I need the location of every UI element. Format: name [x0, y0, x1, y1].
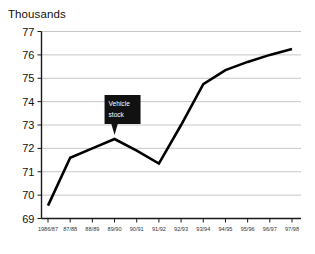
y-tick-label: 69: [22, 213, 34, 225]
x-tick-label: 88/89: [85, 226, 99, 232]
annotation-pointer: [111, 124, 117, 135]
y-tick-label: 70: [22, 189, 34, 201]
x-tick-label: 87/88: [63, 226, 77, 232]
data-series-line: [48, 49, 292, 206]
x-tick-label: 92/93: [174, 226, 188, 232]
chart-container: Thousands 697071727374757677 1986/8787/8…: [0, 0, 315, 254]
y-tick-label: 74: [22, 96, 34, 108]
y-tick-label: 76: [22, 49, 34, 61]
x-tick-label: 91/92: [152, 226, 166, 232]
x-tick-label: 94/95: [218, 226, 232, 232]
y-tick-label: 71: [22, 166, 34, 178]
y-tick-label: 77: [22, 26, 34, 38]
line-chart-plot: 697071727374757677 1986/8787/8888/8989/9…: [0, 0, 315, 254]
annotation-vehicle-stock: Vehiclestock: [105, 95, 141, 135]
annotation-label-line1: Vehicle: [109, 100, 131, 107]
x-tick-label: 96/97: [263, 226, 277, 232]
x-tick-label: 89/90: [108, 226, 122, 232]
x-axis-ticks: 1986/8787/8888/8989/9090/9191/9292/9393/…: [38, 219, 299, 232]
x-tick-label: 1986/87: [38, 226, 58, 232]
y-axis-ticks: 697071727374757677: [22, 26, 41, 225]
y-tick-label: 72: [22, 142, 34, 154]
x-tick-label: 95/96: [241, 226, 255, 232]
y-tick-label: 75: [22, 72, 34, 84]
x-tick-label: 97/98: [285, 226, 299, 232]
x-tick-label: 90/91: [130, 226, 144, 232]
y-tick-label: 73: [22, 119, 34, 131]
x-tick-label: 93/94: [196, 226, 210, 232]
annotation-label-line2: stock: [109, 111, 125, 118]
